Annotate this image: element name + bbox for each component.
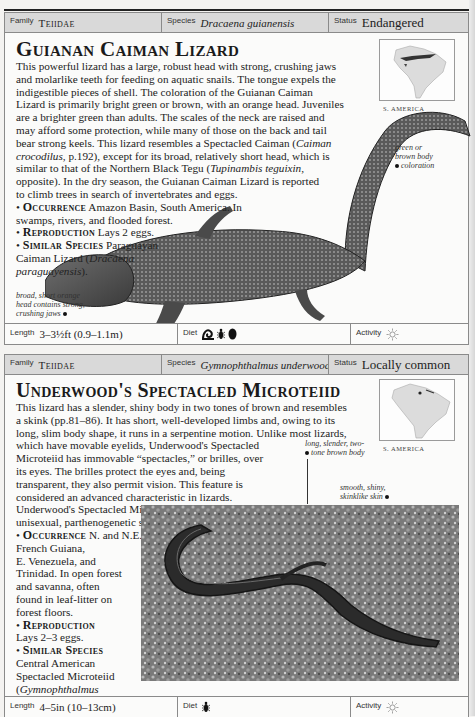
length-label: Length (10, 701, 34, 710)
caption-body-coloration: green or brown body coloration (395, 143, 465, 170)
family-value: Teiidae (39, 359, 75, 371)
diet-label: Diet (183, 701, 197, 710)
caption-skin: smooth, shiny, skinklike skin (340, 483, 430, 501)
page-top-rule (4, 9, 469, 11)
status-cell: Status Locally common (329, 355, 468, 374)
diet-cell: Diet (178, 697, 351, 717)
family-label: Family (10, 16, 34, 25)
status-cell: Status Endangered (329, 13, 468, 32)
egg-icon (228, 328, 237, 340)
length-label: Length (10, 328, 34, 337)
caption-body-tone: long, slender, two- tone brown body (305, 439, 395, 457)
pointer-dot (305, 451, 309, 455)
species-value: Dracaena guianensis (200, 17, 294, 29)
status-value: Endangered (362, 15, 424, 31)
pointer-dot (395, 164, 399, 168)
diet-cell: Diet (178, 324, 351, 344)
family-label: Family (10, 358, 34, 367)
status-label: Status (334, 16, 357, 25)
sun-icon (386, 701, 399, 714)
insect-icon (217, 328, 225, 340)
occurrence-section: • Occurrence Amazon Basin, South America… (16, 201, 471, 214)
activity-label: Activity (356, 701, 381, 710)
entry-footer-bar: Length 4–5in (10–13cm) Diet Activity (5, 696, 468, 717)
length-value: 4–5in (10–13cm) (39, 701, 115, 713)
activity-cell: Activity (351, 324, 468, 344)
caption-head: broad, short orange head contains strong… (16, 291, 116, 318)
species-entry-guianan-caiman-lizard: Family Teiidae Species Dracaena guianens… (4, 12, 469, 345)
activity-label: Activity (356, 328, 381, 337)
activity-cell: Activity (351, 697, 468, 717)
pointer-dot (63, 312, 67, 316)
family-cell: Family Teiidae (5, 355, 162, 374)
species-label: Species (167, 16, 195, 25)
entry-header-bar: Family Teiidae Species Dracaena guianens… (5, 13, 468, 33)
species-cell: Species Gymnophthalmus underwoodi (162, 355, 329, 374)
family-cell: Family Teiidae (5, 13, 162, 32)
snail-icon (202, 328, 214, 340)
entry-footer-bar: Length 3–3½ft (0.9–1.1m) Diet Activity (5, 323, 468, 344)
species-value: Gymnophthalmus underwoodi (200, 359, 329, 371)
species-entry-underwoods-spectacled-microteiid: Family Teiidae Species Gymnophthalmus un… (4, 354, 469, 717)
species-cell: Species Dracaena guianensis (162, 13, 329, 32)
sun-icon (386, 328, 399, 341)
species-label: Species (167, 358, 195, 367)
family-value: Teiidae (39, 17, 75, 29)
length-cell: Length 4–5in (10–13cm) (5, 697, 178, 717)
pointer-dot (385, 495, 389, 499)
status-label: Status (334, 358, 357, 367)
underwoods-microteiid-photo (141, 505, 459, 681)
species-title: Underwood's Spectacled Microteiid (16, 379, 340, 402)
similar-species-section: • Similar Species Paraguayan (16, 239, 471, 252)
species-title: Guianan Caiman Lizard (16, 37, 239, 62)
caption-leader-line (307, 459, 308, 504)
length-cell: Length 3–3½ft (0.9–1.1m) (5, 324, 178, 344)
status-value: Locally common (362, 357, 450, 373)
insect-icon (202, 701, 210, 713)
length-value: 3–3½ft (0.9–1.1m) (39, 328, 122, 340)
diet-label: Diet (183, 328, 197, 337)
entry-header-bar: Family Teiidae Species Gymnophthalmus un… (5, 355, 468, 375)
